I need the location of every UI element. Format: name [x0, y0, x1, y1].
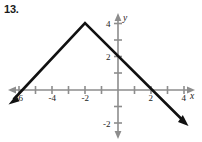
x-axis-label: x [189, 91, 195, 101]
absolute-value-curve [14, 23, 183, 120]
y-axis [115, 13, 122, 139]
graph-curve [9, 23, 189, 126]
graph-figure: 13. [0, 0, 202, 142]
y-axis-label: y [122, 13, 128, 23]
coordinate-plane-svg: -6 -4 -2 2 4 4 2 -2 x y [0, 0, 202, 142]
y-axis-top-arrowhead [115, 13, 122, 21]
y-tick-label-4: 4 [106, 19, 111, 29]
x-tick-label--4: -4 [49, 93, 57, 103]
x-tick-label--6: -6 [16, 93, 24, 103]
y-tick-label--2: -2 [103, 119, 111, 129]
x-tick-label-2: 2 [149, 93, 154, 103]
y-axis-bottom-arrowhead [115, 131, 122, 139]
y-tick-label-2: 2 [106, 52, 111, 62]
y-tick-labels: 4 2 -2 [103, 19, 111, 129]
x-tick-label-4: 4 [182, 93, 187, 103]
x-tick-label--2: -2 [82, 93, 90, 103]
